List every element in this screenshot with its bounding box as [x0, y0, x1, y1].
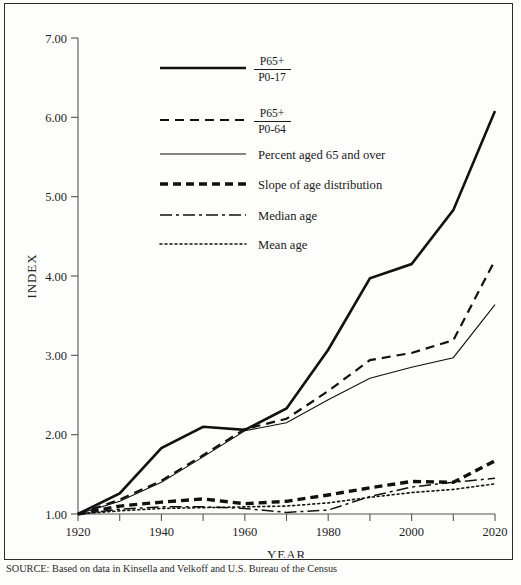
y-axis-tick-label: 1.00	[45, 508, 67, 522]
y-axis: 1.002.003.004.005.006.007.00	[45, 32, 78, 522]
legend-label: Mean age	[258, 238, 308, 252]
legend-label-numerator: P65+	[260, 55, 285, 68]
y-axis-tick-label: 2.00	[45, 428, 67, 442]
series-line	[78, 484, 495, 514]
legend-label: Median age	[258, 209, 318, 223]
x-axis-tick-label: 1920	[66, 525, 91, 539]
chart-legend: P65+P0-17P65+P0-64Percent aged 65 and ov…	[160, 55, 386, 252]
series-line	[78, 111, 495, 514]
y-axis-tick-label: 3.00	[45, 349, 67, 363]
source-note: SOURCE: Based on data in Kinsella and Ve…	[6, 563, 521, 574]
figure-border-box: 1.002.003.004.005.006.007.00 19201940196…	[4, 3, 513, 560]
series-lines	[78, 111, 495, 514]
x-axis-tick-label: 1940	[149, 525, 174, 539]
x-axis-tick-label: 2000	[399, 525, 424, 539]
series-line	[78, 461, 495, 514]
y-axis-tick-label: 4.00	[45, 270, 67, 284]
legend-label-denominator: P0-64	[258, 123, 286, 136]
legend-label: Slope of age distribution	[258, 178, 383, 192]
series-line	[78, 478, 495, 514]
y-axis-tick-label: 7.00	[45, 32, 67, 46]
x-axis-tick-label: 2020	[483, 525, 508, 539]
series-line	[78, 260, 495, 514]
x-axis-tick-label: 1960	[232, 525, 257, 539]
y-axis-tick-label: 5.00	[45, 190, 67, 204]
x-axis: 192019401960198020002020	[66, 514, 508, 539]
index-trend-line-chart: 1.002.003.004.005.006.007.00 19201940196…	[5, 4, 511, 558]
x-axis-title: YEAR	[267, 547, 306, 558]
figure-page: 1.002.003.004.005.006.007.00 19201940196…	[0, 0, 521, 585]
legend-label-numerator: P65+	[260, 107, 285, 120]
legend-label: Percent aged 65 and over	[258, 148, 386, 162]
y-axis-title: INDEX	[24, 254, 39, 299]
x-axis-tick-label: 1980	[316, 525, 341, 539]
legend-label-denominator: P0-17	[258, 71, 286, 84]
y-axis-tick-label: 6.00	[45, 111, 67, 125]
